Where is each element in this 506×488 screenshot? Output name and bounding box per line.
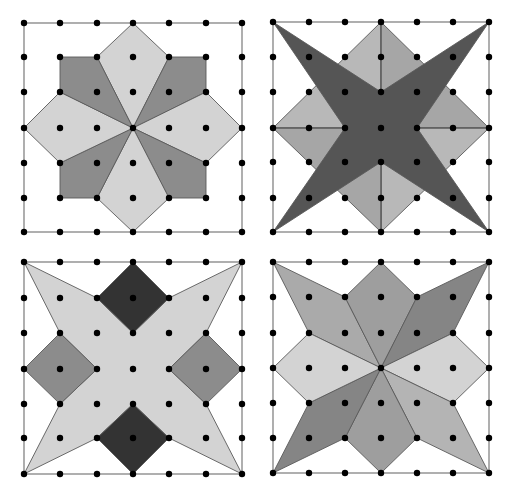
grid-dot bbox=[486, 330, 492, 336]
grid-dot bbox=[450, 435, 456, 441]
grid-dot bbox=[414, 19, 420, 25]
grid-dot bbox=[486, 159, 492, 165]
grid-dot bbox=[21, 401, 27, 407]
grid-dot bbox=[342, 54, 348, 60]
grid-dot bbox=[270, 89, 276, 95]
grid-dot bbox=[203, 89, 209, 95]
grid-dot bbox=[57, 160, 63, 166]
grid-dot bbox=[378, 400, 384, 406]
grid-dot bbox=[57, 401, 63, 407]
grid-dot bbox=[239, 366, 245, 372]
grid-dot bbox=[130, 160, 136, 166]
grid-dot bbox=[94, 54, 100, 60]
grid-dot bbox=[342, 259, 348, 265]
grid-dot bbox=[239, 160, 245, 166]
grid-dot bbox=[306, 259, 312, 265]
grid-dot bbox=[203, 229, 209, 235]
panel-top-left bbox=[21, 20, 245, 235]
grid-dot bbox=[342, 294, 348, 300]
grid-dot bbox=[130, 330, 136, 336]
grid-dot bbox=[203, 295, 209, 301]
grid-dot bbox=[239, 435, 245, 441]
grid-dot bbox=[342, 330, 348, 336]
grid-dot bbox=[342, 365, 348, 371]
grid-dot bbox=[270, 294, 276, 300]
grid-dot bbox=[239, 401, 245, 407]
grid-dot bbox=[450, 330, 456, 336]
grid-dot bbox=[450, 159, 456, 165]
grid-dot bbox=[270, 195, 276, 201]
grid-dot bbox=[414, 54, 420, 60]
grid-dot bbox=[450, 470, 456, 476]
grid-dot bbox=[306, 54, 312, 60]
grid-dot bbox=[57, 295, 63, 301]
grid-dot bbox=[130, 295, 136, 301]
grid-dot bbox=[486, 294, 492, 300]
grid-dot bbox=[166, 401, 172, 407]
grid-dot bbox=[378, 89, 384, 95]
grid-dot bbox=[203, 401, 209, 407]
grid-dot bbox=[342, 125, 348, 131]
grid-dot bbox=[450, 229, 456, 235]
grid-dot bbox=[57, 89, 63, 95]
grid-dot bbox=[239, 20, 245, 26]
grid-dot bbox=[239, 259, 245, 265]
grid-dot bbox=[130, 435, 136, 441]
grid-dot bbox=[203, 160, 209, 166]
grid-dot bbox=[450, 19, 456, 25]
grid-dot bbox=[94, 401, 100, 407]
grid-dot bbox=[414, 159, 420, 165]
grid-dot bbox=[203, 54, 209, 60]
grid-dot bbox=[21, 125, 27, 131]
grid-dot bbox=[342, 470, 348, 476]
grid-dot bbox=[306, 89, 312, 95]
grid-dot bbox=[306, 195, 312, 201]
grid-dot bbox=[414, 125, 420, 131]
grid-dot bbox=[166, 125, 172, 131]
panel-top-right bbox=[270, 19, 492, 235]
grid-dot bbox=[414, 365, 420, 371]
grid-dot bbox=[203, 471, 209, 477]
grid-dot bbox=[342, 400, 348, 406]
grid-dot bbox=[450, 294, 456, 300]
grid-dot bbox=[130, 229, 136, 235]
grid-dot bbox=[94, 89, 100, 95]
grid-dot bbox=[306, 365, 312, 371]
grid-dot bbox=[130, 20, 136, 26]
grid-dot bbox=[378, 365, 384, 371]
grid-dot bbox=[239, 89, 245, 95]
grid-dot bbox=[270, 435, 276, 441]
grid-dot bbox=[57, 20, 63, 26]
grid-dot bbox=[166, 295, 172, 301]
grid-dot bbox=[203, 195, 209, 201]
grid-dot bbox=[378, 330, 384, 336]
grid-dot bbox=[94, 125, 100, 131]
grid-dot bbox=[239, 471, 245, 477]
grid-dot bbox=[306, 400, 312, 406]
grid-dot bbox=[57, 435, 63, 441]
grid-dot bbox=[21, 229, 27, 235]
grid-dot bbox=[450, 400, 456, 406]
grid-dot bbox=[378, 19, 384, 25]
grid-dot bbox=[166, 195, 172, 201]
grid-dot bbox=[342, 435, 348, 441]
grid-dot bbox=[414, 400, 420, 406]
grid-dot bbox=[166, 20, 172, 26]
grid-dot bbox=[94, 295, 100, 301]
grid-dot bbox=[306, 229, 312, 235]
grid-dot bbox=[203, 20, 209, 26]
grid-dot bbox=[306, 330, 312, 336]
grid-dot bbox=[21, 295, 27, 301]
grid-dot bbox=[270, 470, 276, 476]
grid-dot bbox=[239, 195, 245, 201]
grid-dot bbox=[486, 195, 492, 201]
grid-dot bbox=[203, 259, 209, 265]
grid-dot bbox=[21, 366, 27, 372]
grid-dot bbox=[166, 259, 172, 265]
grid-dot bbox=[239, 229, 245, 235]
grid-dot bbox=[21, 195, 27, 201]
grid-dot bbox=[94, 366, 100, 372]
grid-dot bbox=[166, 89, 172, 95]
grid-dot bbox=[130, 54, 136, 60]
grid-dot bbox=[94, 229, 100, 235]
